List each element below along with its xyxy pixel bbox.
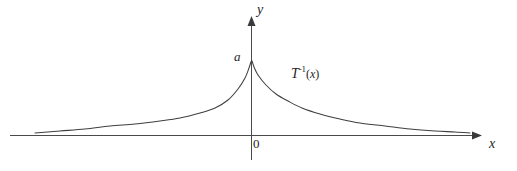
x-axis-arrow-icon (472, 132, 482, 140)
peak-value-label: a (234, 50, 241, 63)
figure-container: y x a 0 T-1(x) (0, 0, 517, 171)
x-axis-label: x (489, 137, 495, 151)
curve-label-exponent: -1 (299, 64, 306, 74)
curve-t-inverse (35, 61, 470, 133)
origin-label: 0 (253, 137, 260, 150)
y-axis-arrow-icon (248, 16, 256, 26)
curve-label: T-1(x) (291, 65, 319, 81)
curve-label-base: T (291, 66, 299, 81)
curve-label-paren-close: ) (315, 67, 319, 81)
y-axis-label: y (257, 3, 263, 17)
